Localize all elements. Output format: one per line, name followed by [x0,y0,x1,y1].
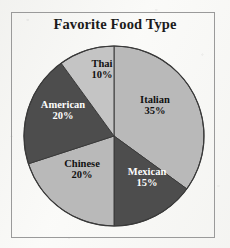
pie-slice-name-american: American [41,99,85,110]
chart-title: Favorite Food Type [0,16,230,33]
pie-slice-percent-chinese: 20% [48,169,116,180]
pie-slice-name-italian: Italian [140,94,170,105]
pie-slice-label-american: American 20% [26,99,100,122]
pie-slice-percent-thai: 10% [76,69,128,80]
pie-slice-label-chinese: Chinese 20% [48,158,116,181]
pie-slice-label-mexican: Mexican 15% [112,166,182,189]
pie-slice-label-thai: Thai 10% [76,58,128,81]
pie-slice-percent-mexican: 15% [112,177,182,188]
pie-slice-name-chinese: Chinese [64,158,100,169]
pie-slice-label-italian: Italian 35% [124,94,186,117]
pie-slice-percent-american: 20% [26,110,100,121]
pie-chart [0,0,230,248]
pie-slice-name-thai: Thai [91,58,112,69]
pie-slice-name-mexican: Mexican [128,166,167,177]
pie-slice-percent-italian: 35% [124,105,186,116]
